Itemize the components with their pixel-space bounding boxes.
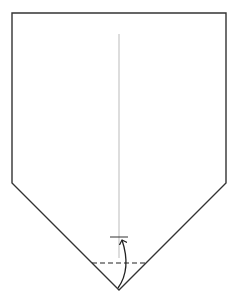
origami-diagram — [0, 0, 234, 304]
